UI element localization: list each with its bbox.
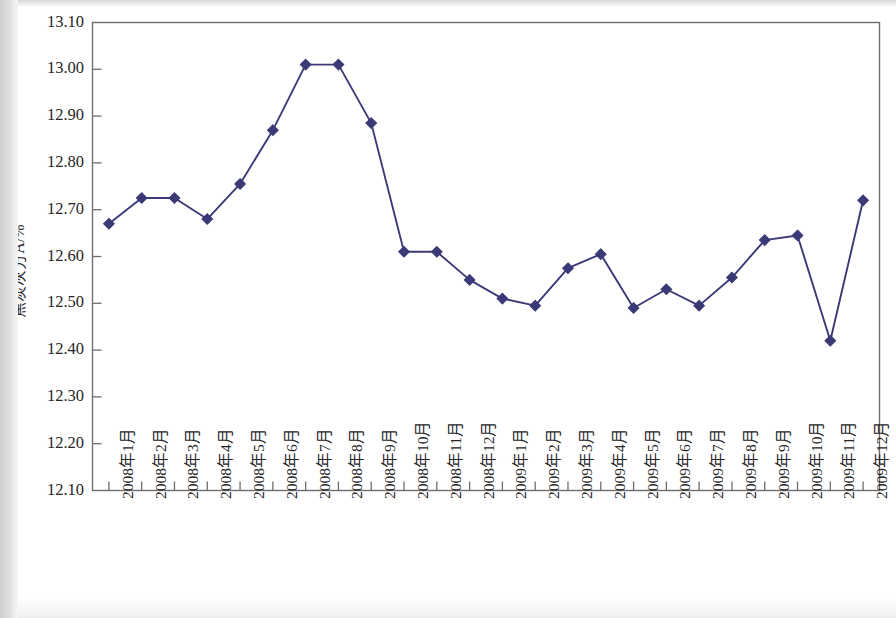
x-axis-tick-label: 2008年7月: [312, 428, 334, 499]
x-axis-tick-label: 2008年2月: [148, 428, 170, 499]
y-axis-tick-label: 12.90: [22, 105, 84, 125]
x-axis-tick-label: 2008年3月: [180, 428, 202, 499]
x-axis-tick-label: 2008年12月: [476, 420, 498, 499]
line-chart: 焦炭灰分A/% 13.1013.0012.9012.8012.7012.6012…: [0, 0, 896, 618]
y-axis-tick-label: 13.00: [22, 58, 84, 78]
x-axis-tick-label: 2008年9月: [377, 428, 399, 499]
x-axis-tick-label: 2008年10月: [410, 420, 432, 499]
y-axis-tick-label: 13.10: [22, 12, 84, 32]
x-axis-tick-label: 2009年3月: [574, 428, 596, 499]
y-axis-tick-label: 12.10: [22, 480, 84, 500]
x-axis-tick-label: 2009年6月: [672, 428, 694, 499]
y-axis-tick-label: 12.80: [22, 152, 84, 172]
x-axis-tick-label: 2008年1月: [115, 428, 137, 499]
x-axis-tick-label: 2009年5月: [640, 428, 662, 499]
x-axis-tick-label: 2008年4月: [213, 428, 235, 499]
x-axis-tick-label: 2009年12月: [869, 420, 891, 499]
x-axis-tick-label: 2009年2月: [541, 428, 563, 499]
x-axis-tick-label: 2008年5月: [246, 428, 268, 499]
x-axis-tick-label: 2008年8月: [344, 428, 366, 499]
x-axis-tick-label: 2008年11月: [443, 421, 465, 499]
x-axis-tick-label: 2009年7月: [705, 428, 727, 499]
x-axis-tick-label: 2009年4月: [607, 428, 629, 499]
x-axis-tick-label: 2009年1月: [508, 428, 530, 499]
y-axis-title-text: 焦炭灰分A/%: [5, 224, 29, 317]
y-axis-tick-label: 12.20: [22, 433, 84, 453]
y-axis-tick-label: 12.30: [22, 386, 84, 406]
x-axis-tick-label: 2009年9月: [771, 428, 793, 499]
x-axis-tick-label: 2008年6月: [279, 428, 301, 499]
x-axis-tick-label: 2009年10月: [804, 420, 826, 499]
y-axis-title: 焦炭灰分A/%: [2, 196, 32, 346]
chart-canvas: [0, 0, 896, 618]
x-axis-tick-label: 2009年8月: [738, 428, 760, 499]
x-axis-tick-label: 2009年11月: [836, 421, 858, 499]
